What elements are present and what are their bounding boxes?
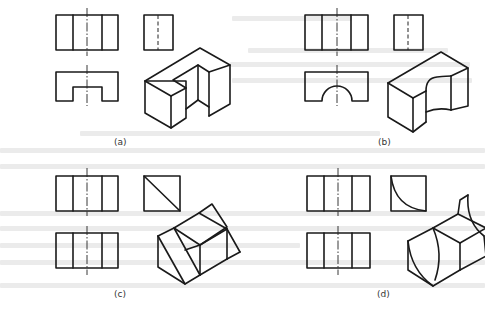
top-view-d [307,226,370,275]
panel-label-a: (a) [114,137,127,147]
panel-c [56,168,240,284]
side-view-c [144,176,180,211]
front-view-b [305,8,368,56]
front-view-d [307,168,370,216]
side-view-a [144,15,173,50]
panel-d [307,168,485,286]
front-view-a [56,8,118,56]
top-view-c [56,226,118,275]
top-view-a [56,65,118,106]
isometric-view-d [408,195,485,286]
top-view-b [305,65,368,106]
technical-drawing [0,0,485,309]
side-view-b [394,15,423,50]
isometric-view-b [388,52,468,132]
front-view-c [56,168,118,216]
isometric-view-c [158,204,240,284]
panel-a [56,8,230,128]
side-view-d [391,176,426,211]
isometric-view-a [145,48,230,128]
panel-label-c: (c) [114,289,126,299]
panel-label-b: (b) [378,137,391,147]
panel-label-d: (d) [377,289,390,299]
panel-b [305,8,468,132]
